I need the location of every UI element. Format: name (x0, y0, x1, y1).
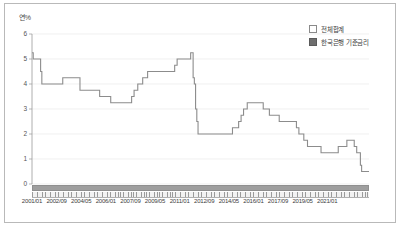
x-tick-label: 2007/09 (120, 198, 140, 204)
y-tick-label: 1 (23, 155, 27, 162)
x-tick-label: 2004/05 (71, 198, 91, 204)
gridlines (32, 34, 369, 184)
x-tick-label: 2001/01 (22, 198, 42, 204)
y-tick-label: 6 (23, 30, 27, 37)
y-axis-ticks: 0123456 (23, 30, 32, 187)
x-tick-label: 2017/09 (268, 198, 288, 204)
plot-area: 연% 전체합계 한국은행 기준금리 0123456 2001/012002/09… (5, 4, 397, 224)
line-chart-svg: 0123456 (5, 4, 397, 224)
y-tick-label: 5 (23, 55, 27, 62)
x-tick-label: 2012/09 (194, 198, 214, 204)
x-tick-label: 2009/05 (145, 198, 165, 204)
x-tick-label: 2016/01 (243, 198, 263, 204)
x-tick-label: 2006/01 (96, 198, 116, 204)
x-tick-label: 2011/01 (170, 198, 190, 204)
y-tick-label: 4 (23, 80, 27, 87)
x-axis-labels: 2001/012002/092004/052006/012007/092009/… (5, 198, 397, 212)
chart-container: 연% 전체합계 한국은행 기준금리 0123456 2001/012002/09… (4, 3, 396, 223)
series-line-base-rate (32, 53, 369, 172)
x-tick-label: 2021/01 (317, 198, 337, 204)
x-tick-label: 2002/09 (46, 198, 66, 204)
x-tick-label: 2019/05 (292, 198, 312, 204)
y-tick-label: 2 (23, 130, 27, 137)
x-tick-label: 2014/05 (219, 198, 239, 204)
y-tick-label: 0 (23, 180, 27, 187)
range-scrollbar[interactable] (32, 185, 369, 191)
y-tick-label: 3 (23, 105, 27, 112)
